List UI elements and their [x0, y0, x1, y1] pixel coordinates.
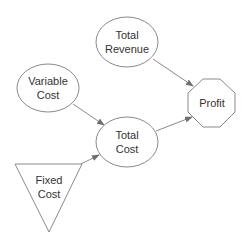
edge-total-cost-to-profit	[156, 117, 192, 131]
influence-diagram: Total Revenue Variable Cost Total Cost P…	[0, 0, 246, 246]
node-label-line-1: Total	[115, 129, 138, 141]
ellipse-shape	[96, 117, 158, 167]
node-label-line-1: Fixed	[36, 174, 63, 186]
node-label-line-2: Cost	[37, 89, 60, 101]
node-label-line-1: Profit	[199, 97, 225, 109]
node-total-revenue: Total Revenue	[96, 17, 158, 67]
ellipse-shape	[96, 17, 158, 67]
node-total-cost: Total Cost	[96, 117, 158, 167]
node-fixed-cost: Fixed Cost	[15, 164, 82, 232]
edge-fixed-cost-to-total-cost	[81, 155, 99, 164]
node-label-line-1: Variable	[28, 75, 68, 87]
node-label-line-1: Total	[115, 29, 138, 41]
edge-variable-cost-to-total-cost	[73, 104, 104, 125]
node-label-line-2: Cost	[116, 143, 139, 155]
ellipse-shape	[17, 64, 79, 112]
node-profit: Profit	[188, 79, 235, 127]
node-label-line-2: Revenue	[105, 43, 149, 55]
edge-total-revenue-to-profit	[153, 59, 193, 86]
node-variable-cost: Variable Cost	[17, 64, 79, 112]
node-label-line-2: Cost	[38, 188, 61, 200]
